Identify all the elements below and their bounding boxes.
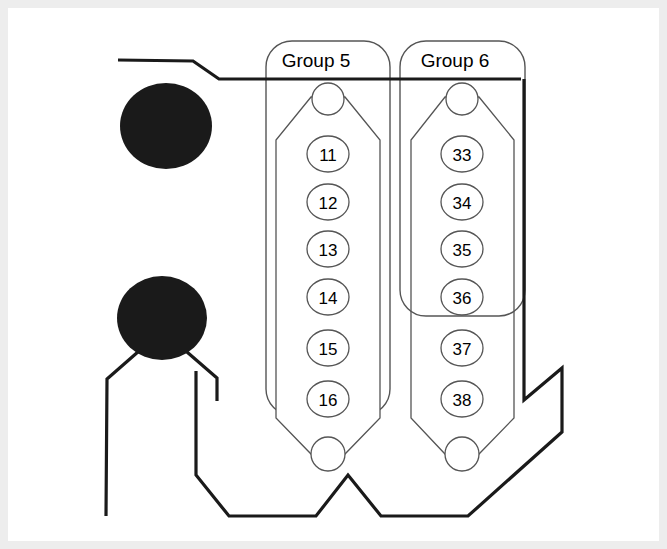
group-5-pin-16[interactable]: 16 bbox=[307, 381, 349, 417]
group-6-pin-36[interactable]: 36 bbox=[441, 279, 483, 315]
pin-label: 13 bbox=[319, 241, 338, 260]
upper-grommet-blob bbox=[120, 83, 212, 169]
group-5-pin-12[interactable]: 12 bbox=[307, 184, 349, 220]
connector-group-diagram: Group 5 11 12 13 14 15 bbox=[0, 0, 667, 549]
group-5-bottom-terminal[interactable] bbox=[311, 437, 345, 471]
pin-label: 14 bbox=[319, 289, 338, 308]
group-5[interactable]: Group 5 11 12 13 14 15 bbox=[266, 41, 390, 471]
group-5-pin-14[interactable]: 14 bbox=[307, 279, 349, 315]
group-5-top-terminal[interactable] bbox=[312, 83, 344, 115]
group-6-pin-34[interactable]: 34 bbox=[441, 184, 483, 220]
pin-label: 38 bbox=[453, 391, 472, 410]
group-6-label: Group 6 bbox=[421, 50, 490, 71]
pin-label: 11 bbox=[319, 146, 337, 165]
pin-label: 12 bbox=[319, 194, 338, 213]
diagram-canvas: Group 5 11 12 13 14 15 bbox=[0, 0, 667, 549]
lower-grommet-blob bbox=[117, 276, 207, 360]
group-6-pin-33[interactable]: 33 bbox=[441, 136, 483, 172]
pin-label: 33 bbox=[453, 146, 472, 165]
pin-label: 16 bbox=[319, 391, 338, 410]
pin-label: 34 bbox=[453, 194, 472, 213]
pin-label: 36 bbox=[453, 289, 472, 308]
pin-label: 37 bbox=[453, 340, 472, 359]
pin-label: 35 bbox=[453, 241, 472, 260]
group-6-bottom-terminal[interactable] bbox=[445, 437, 479, 471]
group-6-pin-38[interactable]: 38 bbox=[441, 381, 483, 417]
group-5-pin-15[interactable]: 15 bbox=[307, 330, 349, 366]
group-6-pin-35[interactable]: 35 bbox=[441, 231, 483, 267]
group-5-label: Group 5 bbox=[282, 50, 351, 71]
group-5-pin-11[interactable]: 11 bbox=[307, 136, 349, 172]
group-5-pin-13[interactable]: 13 bbox=[307, 231, 349, 267]
group-6-pin-37[interactable]: 37 bbox=[441, 330, 483, 366]
pin-label: 15 bbox=[319, 340, 338, 359]
group-6-top-terminal[interactable] bbox=[446, 83, 478, 115]
